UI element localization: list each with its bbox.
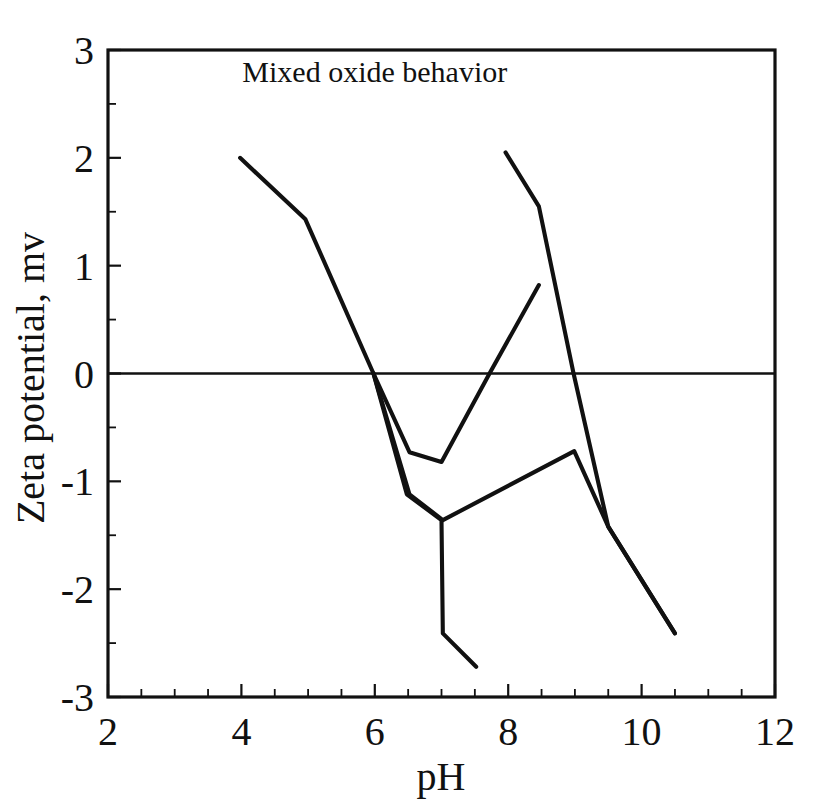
chart-figure: -3-2-10123 24681012 Mixed oxide behavior… <box>0 0 831 810</box>
x-tick-label: 10 <box>622 709 662 754</box>
x-tick-label: 2 <box>98 709 118 754</box>
y-tick-label: 2 <box>74 136 94 181</box>
y-axis-title: Zeta potential, mv <box>8 232 53 524</box>
y-tick-label: 3 <box>74 28 94 73</box>
x-tick-label: 6 <box>365 709 385 754</box>
x-tick-label: 8 <box>498 709 518 754</box>
y-tick-label: -3 <box>61 675 94 720</box>
plot-title: Mixed oxide behavior <box>242 55 507 88</box>
x-tick-label: 4 <box>231 709 251 754</box>
y-tick-label: -2 <box>61 567 94 612</box>
y-tick-label: 1 <box>74 244 94 289</box>
y-tick-label: -1 <box>61 459 94 504</box>
x-tick-label: 12 <box>755 709 795 754</box>
chart-background <box>0 0 831 810</box>
x-axis-title: pH <box>417 754 466 799</box>
zeta-potential-line-chart: -3-2-10123 24681012 Mixed oxide behavior… <box>0 0 831 810</box>
y-tick-label: 0 <box>74 352 94 397</box>
